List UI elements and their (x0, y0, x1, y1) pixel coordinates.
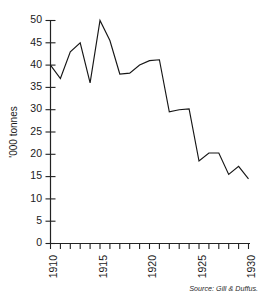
x-tick-label-1910: 1910 (47, 255, 59, 279)
chart-figure: 0 5 10 15 20 25 30 35 40 45 50 (0, 0, 268, 307)
y-tick-label-35: 35 (30, 80, 42, 92)
line-chart: 0 5 10 15 20 25 30 35 40 45 50 (0, 0, 268, 307)
y-tick-label-0: 0 (36, 236, 42, 248)
x-tick-marks (51, 244, 249, 250)
x-tick-label-1925: 1925 (196, 255, 208, 279)
y-tick-label-50: 50 (30, 13, 42, 25)
source-note: Source: Gill & Duffus. (189, 284, 258, 293)
y-tick-label-40: 40 (30, 58, 42, 70)
y-axis-title: '000 tonnes (8, 106, 19, 157)
y-tick-label-15: 15 (30, 169, 42, 181)
y-tick-label-45: 45 (30, 36, 42, 48)
y-tick-label-10: 10 (30, 192, 42, 204)
x-tick-label-1920: 1920 (146, 255, 158, 279)
y-tick-label-20: 20 (30, 147, 42, 159)
y-tick-label-5: 5 (36, 214, 42, 226)
x-tick-label-1915: 1915 (97, 255, 109, 279)
y-tick-label-30: 30 (30, 102, 42, 114)
y-tick-label-25: 25 (30, 125, 42, 137)
x-tick-label-1930: 1930 (245, 255, 257, 279)
data-series-line (51, 21, 249, 179)
